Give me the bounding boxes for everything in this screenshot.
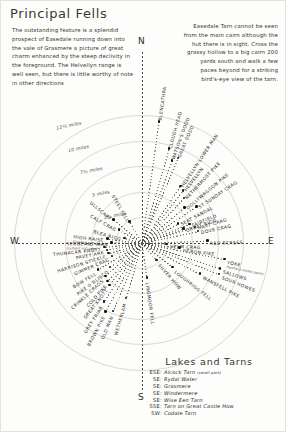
peak-name: BLENCATHRA [157, 86, 167, 121]
peak-marker [110, 241, 113, 244]
lake-direction: SSE [136, 403, 160, 410]
peak-marker [108, 284, 111, 287]
lake-name: Wise Een Tarn [164, 396, 282, 403]
cardinal-west: W [10, 236, 20, 246]
peak-marker [146, 276, 149, 279]
lakes-table-row: SE:Wise Een Tarn [136, 396, 282, 403]
lake-direction: ESE [136, 369, 160, 376]
lakes-table-row: SE:Rydal Water [136, 376, 282, 383]
peak-marker [104, 310, 107, 313]
page-title: Principal Fells [10, 6, 107, 21]
peak-marker [123, 237, 126, 240]
lakes-and-tarns-section: Lakes and Tarns ESE:Alcock Tarn (small p… [136, 356, 282, 416]
peak-marker [206, 239, 209, 242]
lakes-title: Lakes and Tarns [136, 356, 282, 367]
peak-marker [178, 246, 181, 249]
lake-name: Alcock Tarn (small part) [164, 369, 282, 376]
lake-name: Windermere [164, 389, 282, 396]
lakes-table-row: SE:Windermere [136, 389, 282, 396]
lake-name: Codale Tarn [164, 410, 282, 417]
peak-marker [112, 218, 115, 221]
lakes-table: ESE:Alcock Tarn (small part)SE:Rydal Wat… [136, 369, 282, 416]
lake-direction: SW [136, 410, 160, 417]
distance-ring-label: 12½ miles [56, 120, 82, 130]
panorama-page: Principal Fells The outstanding feature … [0, 0, 286, 432]
peak-marker [165, 243, 168, 246]
cardinal-east: E [268, 236, 275, 246]
peak-marker [219, 267, 222, 270]
lake-direction: SE [136, 389, 160, 396]
lake-note: (small part) [197, 371, 221, 375]
peak-label: RED SCREES [210, 239, 243, 245]
lakes-table-row: ESE:Alcock Tarn (small part) [136, 369, 282, 376]
lakes-table-row: SE:Grasmere [136, 383, 282, 390]
lakes-table-row: SW:Codale Tarn [136, 410, 282, 417]
lake-direction: SE [136, 376, 160, 383]
lake-direction: SE [136, 396, 160, 403]
lakes-table-row: SSE:Tarn on Great Castle How [136, 403, 282, 410]
peak-label: BLENCATHRA [157, 86, 167, 121]
lake-name: Tarn on Great Castle How [164, 403, 282, 410]
cardinal-north: N [138, 36, 146, 46]
note-right: Easedale Tarn cannot be seen from the ma… [183, 22, 278, 83]
peak-name: RED SCREES [210, 239, 243, 245]
lake-name: Grasmere [164, 383, 282, 390]
lake-name: Rydal Water [164, 376, 282, 383]
note-left: The outstanding feature is a splendid pr… [12, 26, 134, 87]
lake-direction: SE [136, 383, 160, 390]
